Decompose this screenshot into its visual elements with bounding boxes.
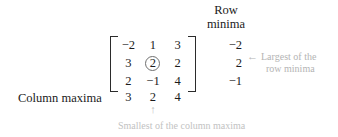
row-minima-value-1: 2 [200,54,244,72]
up-arrow-icon: ↑ [146,104,160,115]
matrix-cell-2-2: 4 [165,72,190,90]
annotation-line2: row minima [261,63,316,75]
annotation-text: Largest of the row minima [261,51,316,74]
row-minima-value-0: −2 [200,36,244,54]
matrix-cell-2-0: 2 [116,72,141,90]
annotation-line1: Largest of the [261,51,316,63]
matrix-cell-1-1-saddle-point: 2 [141,54,166,72]
matrix-grid: −2 1 3 3 2 2 2 −1 4 [116,36,190,90]
matrix-cell-1-2: 2 [165,54,190,72]
saddle-point-value: 2 [150,56,156,71]
row-minima-values: −2 2 −1 [200,36,244,90]
payoff-matrix-figure: Row minima −2 1 3 3 2 2 2 −1 4 −2 2 −1 [0,0,338,137]
row-minima-value-2: −1 [200,72,244,90]
column-maxima-value-2: 4 [165,90,190,105]
matrix-cell-2-1: −1 [141,72,166,90]
column-maxima-label: Column maxima [18,91,102,106]
matrix-cell-0-2: 3 [165,36,190,54]
saddle-point-circle: 2 [145,56,160,71]
matrix-cell-0-1: 1 [141,36,166,54]
row-minima-header-line2: minima [190,17,262,31]
left-arrow-icon: ← [247,51,258,63]
matrix: −2 1 3 3 2 2 2 −1 4 [110,36,196,90]
smallest-of-column-maxima-annotation: Smallest of the column maxima [118,120,245,132]
matrix-cell-0-0: −2 [116,36,141,54]
matrix-cell-1-0: 3 [116,54,141,72]
column-maxima-value-0: 3 [116,90,141,105]
row-minima-header: Row minima [190,3,262,31]
largest-of-row-minima-annotation: ← Largest of the row minima [247,51,316,74]
row-minima-header-line1: Row [190,3,262,17]
